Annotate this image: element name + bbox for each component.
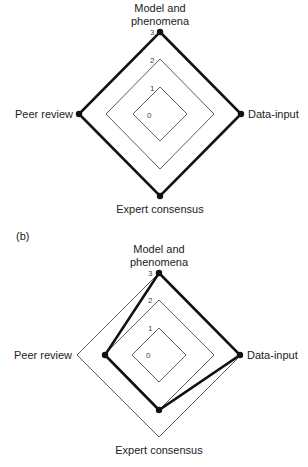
data-point-data-input (238, 111, 244, 117)
grid-level-1 (133, 87, 187, 141)
axis-label-expert: Expert consensus (116, 203, 204, 215)
data-point-model (157, 29, 163, 35)
axis-label-expert: Expert consensus (115, 444, 203, 456)
grid-level-2 (104, 300, 214, 410)
tick-3: 3 (148, 269, 153, 278)
grid-level-1 (132, 328, 186, 382)
data-point-peer (102, 352, 108, 358)
data-polygon (79, 32, 241, 196)
axis-label-model-line1: Model and (133, 243, 184, 255)
tick-0: 0 (147, 111, 152, 120)
data-point-data-input (237, 352, 243, 358)
axis-label-data-input: Data-input (248, 108, 299, 120)
axis-label-data-input: Data-input (247, 349, 298, 361)
axis-label-peer: Peer review (14, 349, 72, 361)
radar-chart-a: 3 2 1 0 Model and phenomena Data-input E… (15, 2, 299, 215)
tick-2: 2 (150, 56, 155, 65)
tick-0: 0 (146, 351, 151, 360)
tick-3: 3 (150, 28, 155, 37)
tick-1: 1 (148, 324, 153, 333)
grid-level-2 (106, 59, 214, 169)
axis-label-model-line1: Model and (134, 2, 185, 14)
data-point-expert (157, 193, 163, 199)
axis-label-peer: Peer review (15, 108, 73, 120)
radar-chart-b: 3 2 1 0 Model and phenomena Data-input E… (14, 243, 298, 456)
figure: 3 2 1 0 Model and phenomena Data-input E… (0, 0, 308, 467)
axis-label-model-line2: phenomena (131, 15, 190, 27)
axis-label-model-line2: phenomena (130, 256, 189, 268)
data-point-expert (156, 407, 162, 413)
data-point-model (156, 270, 162, 276)
data-point-peer (76, 111, 82, 117)
tick-2: 2 (148, 296, 153, 305)
tick-1: 1 (150, 84, 155, 93)
panel-label-b: (b) (16, 230, 29, 242)
